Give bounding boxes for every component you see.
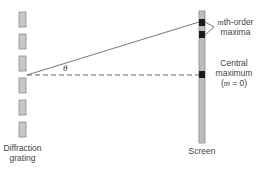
central-line1: Central — [210, 58, 258, 68]
grating-slit — [19, 78, 26, 93]
mth-order-line2: maxima — [213, 27, 258, 37]
central-line2: maximum — [210, 68, 258, 78]
grating-label-line1: Diffraction — [0, 143, 45, 153]
grating-slit — [19, 34, 26, 49]
screen — [199, 11, 205, 143]
mth-order-maximum-lower — [199, 31, 205, 38]
central-maximum-marker — [199, 71, 205, 78]
mth-order-text: th-order — [224, 17, 254, 27]
grating-label: Diffraction grating — [0, 143, 45, 163]
central-eq: = 0) — [230, 78, 247, 88]
central-maximum-label: Central maximum (m = 0) — [210, 58, 258, 88]
angle-theta-label: θ — [63, 63, 67, 73]
grating-slit — [19, 12, 26, 27]
mth-order-maxima-label: mth-order maxima — [213, 17, 258, 37]
diffraction-grating — [19, 12, 26, 137]
grating-slit — [19, 122, 26, 137]
grating-label-line2: grating — [0, 153, 45, 163]
grating-slit — [19, 100, 26, 115]
diffracted-ray — [27, 22, 199, 75]
grating-slit — [19, 56, 26, 71]
screen-label: Screen — [182, 146, 222, 156]
mth-order-maximum-upper — [199, 19, 205, 26]
